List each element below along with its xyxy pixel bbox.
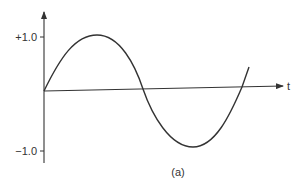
x-axis — [44, 86, 283, 91]
y-tick-label-minus-one: −1.0 — [15, 145, 37, 157]
sine-wave-figure: +1.0 −1.0 t (a) — [0, 0, 302, 193]
sine-curve — [44, 35, 249, 147]
figure-caption: (a) — [171, 166, 184, 178]
x-axis-label: t — [287, 80, 290, 92]
y-tick-label-plus-one: +1.0 — [15, 31, 37, 43]
